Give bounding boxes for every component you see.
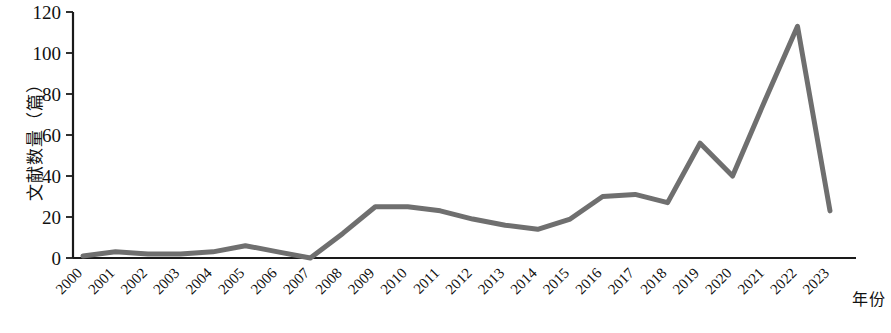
line-chart: 020406080100120 200020012002200320042005…: [0, 0, 891, 333]
x-tick-label: 2015: [540, 265, 573, 298]
x-tick-label: 2007: [280, 264, 313, 297]
x-tick-label: 2021: [735, 265, 768, 298]
x-tick-label: 2001: [85, 265, 118, 298]
x-tick-label: 2000: [53, 265, 86, 298]
chart-axes: [73, 12, 856, 258]
x-tick-label: 2002: [118, 265, 151, 298]
x-tick-label: 2005: [215, 265, 248, 298]
x-tick-label: 2017: [605, 264, 638, 297]
x-tick-label: 2003: [150, 265, 183, 298]
chart-plot-area: 020406080100120 200020012002200320042005…: [0, 0, 891, 333]
x-tick-label: 2023: [800, 265, 833, 298]
x-tick-label: 2010: [377, 265, 410, 298]
y-tick-label: 0: [52, 248, 62, 269]
x-tick-label: 2020: [702, 265, 735, 298]
x-tick-label: 2006: [247, 264, 280, 297]
y-axis-label: 文献数量（篇）: [21, 28, 46, 248]
x-tick-label: 2009: [345, 265, 378, 298]
x-tick-label: 2016: [572, 264, 605, 297]
data-line-literature-count: [83, 26, 830, 258]
x-tick-label: 2019: [670, 265, 703, 298]
x-tick-label: 2022: [767, 265, 800, 298]
x-tick-label: 2004: [183, 264, 216, 297]
x-tick-group: 2000200120022003200420052006200720082009…: [53, 264, 833, 297]
x-tick-label: 2008: [312, 265, 345, 298]
x-tick-label: 2018: [637, 265, 670, 298]
x-tick-label: 2011: [410, 265, 442, 297]
data-series-group: [83, 26, 830, 258]
x-tick-label: 2014: [507, 264, 540, 297]
x-tick-label: 2012: [442, 265, 475, 298]
x-axis-label: 年份: [852, 286, 886, 310]
y-tick-label: 120: [33, 2, 62, 23]
x-tick-label: 2013: [475, 265, 508, 298]
